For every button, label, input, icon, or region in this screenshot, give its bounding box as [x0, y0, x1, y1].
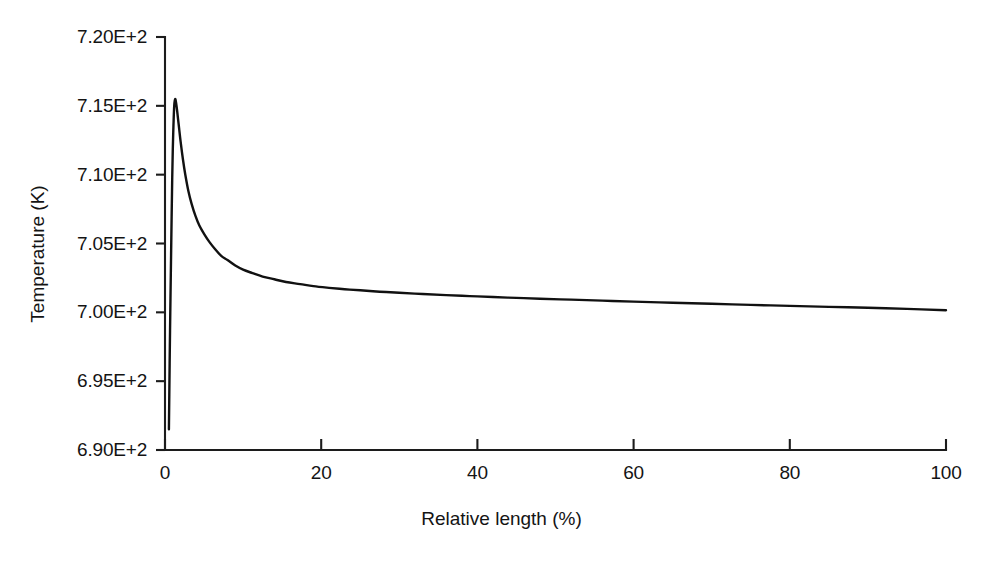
- y-tick-label: 7.10E+2: [0, 164, 147, 186]
- x-tick-marks: [165, 439, 946, 450]
- y-tick-label: 6.95E+2: [0, 370, 147, 392]
- x-tick-label: 80: [779, 462, 800, 484]
- plot-area: [0, 0, 1003, 566]
- x-axis-title: Relative length (%): [0, 508, 1003, 530]
- x-tick-label: 100: [930, 462, 961, 484]
- x-tick-label: 40: [467, 462, 488, 484]
- y-tick-label: 7.05E+2: [0, 233, 147, 255]
- x-tick-label: 20: [311, 462, 332, 484]
- x-tick-label: 60: [623, 462, 644, 484]
- y-axis-title: Temperature (K): [27, 154, 49, 354]
- y-tick-label: 7.15E+2: [0, 95, 147, 117]
- y-tick-label: 7.00E+2: [0, 301, 147, 323]
- temperature-curve: [169, 99, 946, 429]
- axes-group: [165, 37, 946, 450]
- y-tick-marks: [156, 37, 165, 450]
- y-tick-label: 7.20E+2: [0, 26, 147, 48]
- x-tick-label: 0: [160, 462, 170, 484]
- y-tick-label: 6.90E+2: [0, 439, 147, 461]
- chart-figure: 6.90E+26.95E+27.00E+27.05E+27.10E+27.15E…: [0, 0, 1003, 566]
